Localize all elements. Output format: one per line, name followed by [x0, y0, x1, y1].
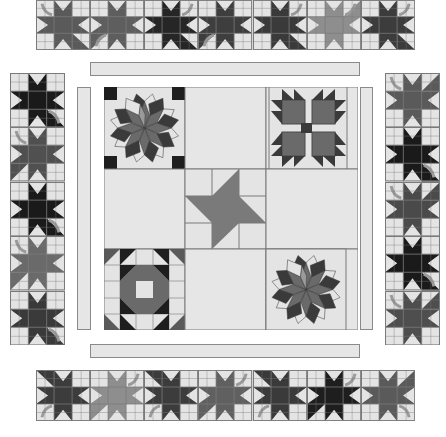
leaf-block	[385, 127, 440, 181]
center-medallion	[104, 87, 358, 330]
leaf-block	[198, 370, 252, 421]
maple-leaf-icon	[385, 127, 440, 181]
maple-leaf-icon	[90, 0, 144, 50]
leaf-block	[385, 236, 440, 290]
maple-leaf-icon	[10, 236, 65, 290]
leaf-block	[385, 291, 440, 345]
maple-leaf-icon	[198, 370, 252, 421]
maple-leaf-icon	[144, 370, 198, 421]
bottom-border	[36, 370, 415, 421]
maple-leaf-icon	[198, 0, 252, 50]
maple-leaf-icon	[385, 236, 440, 290]
maple-leaf-icon	[10, 182, 65, 236]
star-block-top-left	[104, 87, 185, 169]
leaf-block	[385, 182, 440, 236]
leaf-block	[198, 0, 252, 50]
leaf-block	[90, 0, 144, 50]
left-sashing	[77, 87, 91, 330]
leaf-block	[361, 0, 415, 50]
leaf-block	[144, 370, 198, 421]
leaf-block	[307, 0, 361, 50]
maple-leaf-icon	[253, 370, 307, 421]
maple-leaf-icon	[36, 370, 90, 421]
center-medallion-svg	[104, 87, 358, 330]
leaf-block	[253, 0, 307, 50]
maple-leaf-icon	[90, 370, 144, 421]
leaf-block	[10, 127, 65, 181]
maple-leaf-icon	[144, 0, 198, 50]
leaf-block	[307, 370, 361, 421]
maple-leaf-icon	[385, 291, 440, 345]
maple-leaf-icon	[385, 182, 440, 236]
maple-leaf-icon	[307, 370, 361, 421]
right-sashing	[360, 87, 373, 330]
maple-leaf-icon	[36, 0, 90, 50]
maple-leaf-icon	[385, 73, 440, 127]
maple-leaf-icon	[307, 0, 361, 50]
leaf-block	[90, 370, 144, 421]
left-border	[10, 73, 65, 345]
top-border	[36, 0, 415, 50]
leaf-block	[385, 73, 440, 127]
bottom-sashing	[90, 344, 360, 358]
leaf-block	[10, 73, 65, 127]
top-sashing	[90, 62, 360, 76]
leaf-block	[253, 370, 307, 421]
maple-leaf-icon	[10, 73, 65, 127]
pinwheel-star-block	[185, 169, 266, 249]
shoofly-block	[104, 249, 185, 330]
right-border	[385, 73, 440, 345]
maple-leaf-icon	[361, 0, 415, 50]
maple-leaf-icon	[10, 127, 65, 181]
leaf-block	[10, 291, 65, 345]
maple-leaf-icon	[10, 291, 65, 345]
leaf-block	[144, 0, 198, 50]
leaf-block	[361, 370, 415, 421]
bears-paw-block	[266, 87, 358, 169]
maple-leaf-icon	[253, 0, 307, 50]
leaf-block	[36, 0, 90, 50]
leaf-block	[10, 236, 65, 290]
maple-leaf-icon	[361, 370, 415, 421]
leaf-block	[10, 182, 65, 236]
leaf-block	[36, 370, 90, 421]
star-block-bottom-right	[266, 249, 358, 330]
